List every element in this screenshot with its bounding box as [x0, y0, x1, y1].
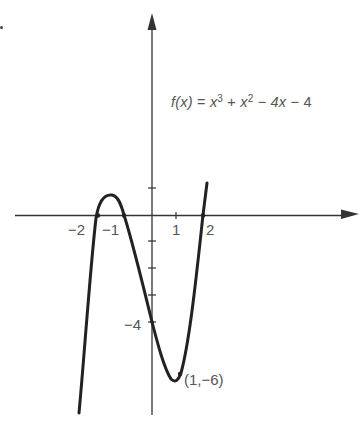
x-axis-arrow-icon: [341, 210, 359, 220]
eq-equals: =: [197, 94, 206, 110]
eq-4x: 4x: [271, 94, 287, 110]
eq-exp3: 3: [217, 93, 223, 104]
y-tick-label-neg4: −4: [124, 317, 141, 332]
function-graph: [0, 0, 362, 428]
minimum-point-label: (1,−6): [184, 372, 224, 387]
x-tick-label-neg1: −1: [102, 222, 119, 237]
eq-minus1: −: [258, 94, 267, 110]
y-axis-arrow-icon: [148, 13, 157, 30]
eq-fx: f(x): [171, 94, 193, 110]
eq-exp2: 2: [248, 93, 254, 104]
eq-x2: x: [240, 94, 247, 110]
eq-plus: +: [227, 94, 236, 110]
eq-const: 4: [303, 94, 311, 110]
stray-mark: [0, 26, 3, 29]
x-tick-label-2: 2: [206, 222, 214, 237]
eq-minus2: −: [291, 94, 300, 110]
x-tick-label-neg2: −2: [68, 222, 85, 237]
equation-label: f(x) = x3 + x2 − 4x − 4: [171, 93, 312, 110]
x-tick-label-1: 1: [172, 222, 180, 237]
